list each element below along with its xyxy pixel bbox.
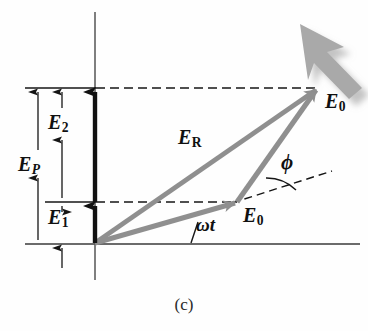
label-E-2: E2 xyxy=(48,112,69,135)
label-E-0-lower: E0 xyxy=(243,205,264,228)
phi-angle-arc xyxy=(266,178,296,190)
label-E-P: EP xyxy=(18,154,40,177)
diagram-canvas xyxy=(0,0,368,331)
figure-caption: (c) xyxy=(0,295,368,315)
label-phi-angle: ϕ xyxy=(281,152,293,173)
label-E-0-upper: E0 xyxy=(325,91,346,114)
phasor-E0-upper xyxy=(237,90,316,202)
label-E-R: ER xyxy=(178,127,202,150)
label-E-1: E1 xyxy=(48,207,69,230)
label-omega-t-angle: ωt xyxy=(196,215,215,234)
phasor-diagram-figure: EP E2 E1 ER E0 E0 ϕ ωt (c) xyxy=(0,0,368,331)
